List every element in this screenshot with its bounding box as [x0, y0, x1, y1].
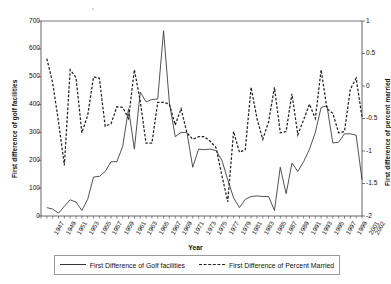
chart-container: First difference of golf facilities Firs… [0, 0, 391, 284]
axis-lines [41, 21, 362, 216]
chart-legend: First Difference of Golf facilitiesFirst… [54, 255, 340, 275]
tick-marks [38, 21, 365, 219]
legend-solid-line-icon [60, 264, 86, 266]
legend-dashed-line-icon [199, 264, 225, 266]
legend-item[interactable]: First Difference of Percent Married [199, 262, 334, 269]
legend-label: First Difference of Golf facilities [90, 262, 185, 269]
series-line-percent-married [47, 59, 362, 202]
plot-area [0, 0, 391, 284]
legend-item[interactable]: First Difference of Golf facilities [60, 262, 185, 269]
series-line-golf-facilities [47, 31, 362, 213]
legend-label: First Difference of Percent Married [229, 262, 334, 269]
